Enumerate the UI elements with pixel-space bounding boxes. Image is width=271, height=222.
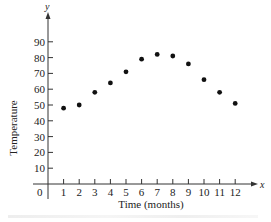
x-ticks: 123456789101112 bbox=[61, 179, 241, 198]
y-tick-label: 20 bbox=[34, 146, 46, 158]
x-tick-label: 1 bbox=[61, 186, 67, 198]
x-axis-title: Time (months) bbox=[118, 198, 184, 211]
data-point bbox=[217, 90, 222, 95]
y-tick-label: 60 bbox=[34, 83, 46, 95]
y-tick-label: 50 bbox=[34, 99, 46, 111]
y-axis-arrow-icon bbox=[46, 12, 51, 19]
data-point bbox=[170, 54, 175, 59]
x-tick-label: 6 bbox=[139, 186, 145, 198]
y-tick-label: 30 bbox=[34, 131, 46, 143]
x-tick-label: 12 bbox=[230, 186, 241, 198]
x-tick-label: 11 bbox=[214, 186, 225, 198]
y-tick-label: 70 bbox=[34, 67, 46, 79]
x-tick-label: 8 bbox=[170, 186, 176, 198]
x-tick-label: 4 bbox=[108, 186, 114, 198]
y-axis-variable: y bbox=[44, 1, 50, 12]
data-points bbox=[61, 52, 237, 111]
scatter-chart: y x 0 102030405060708090 123456789101112… bbox=[0, 0, 271, 222]
x-tick-label: 9 bbox=[186, 186, 192, 198]
data-point bbox=[139, 57, 144, 62]
data-point bbox=[155, 52, 160, 57]
y-axis-title: Temperature bbox=[7, 100, 19, 156]
data-point bbox=[61, 106, 66, 111]
x-tick-label: 2 bbox=[76, 186, 82, 198]
data-point bbox=[186, 62, 191, 67]
x-tick-label: 10 bbox=[199, 186, 211, 198]
x-tick-label: 3 bbox=[92, 186, 98, 198]
cropped-caption-line bbox=[8, 215, 258, 218]
data-point bbox=[92, 90, 97, 95]
y-tick-label: 80 bbox=[34, 52, 46, 64]
y-tick-label: 10 bbox=[34, 162, 46, 174]
y-tick-label: 90 bbox=[34, 36, 46, 48]
x-axis-variable: x bbox=[259, 179, 265, 190]
x-tick-label: 7 bbox=[154, 186, 160, 198]
data-point bbox=[108, 80, 113, 85]
origin-label: 0 bbox=[37, 186, 43, 198]
y-ticks: 102030405060708090 bbox=[34, 36, 53, 174]
data-point bbox=[77, 103, 82, 108]
x-axis-arrow-icon bbox=[251, 182, 258, 187]
x-tick-label: 5 bbox=[123, 186, 129, 198]
data-point bbox=[124, 69, 129, 74]
data-point bbox=[202, 77, 207, 82]
y-tick-label: 40 bbox=[34, 115, 46, 127]
data-point bbox=[233, 101, 238, 106]
